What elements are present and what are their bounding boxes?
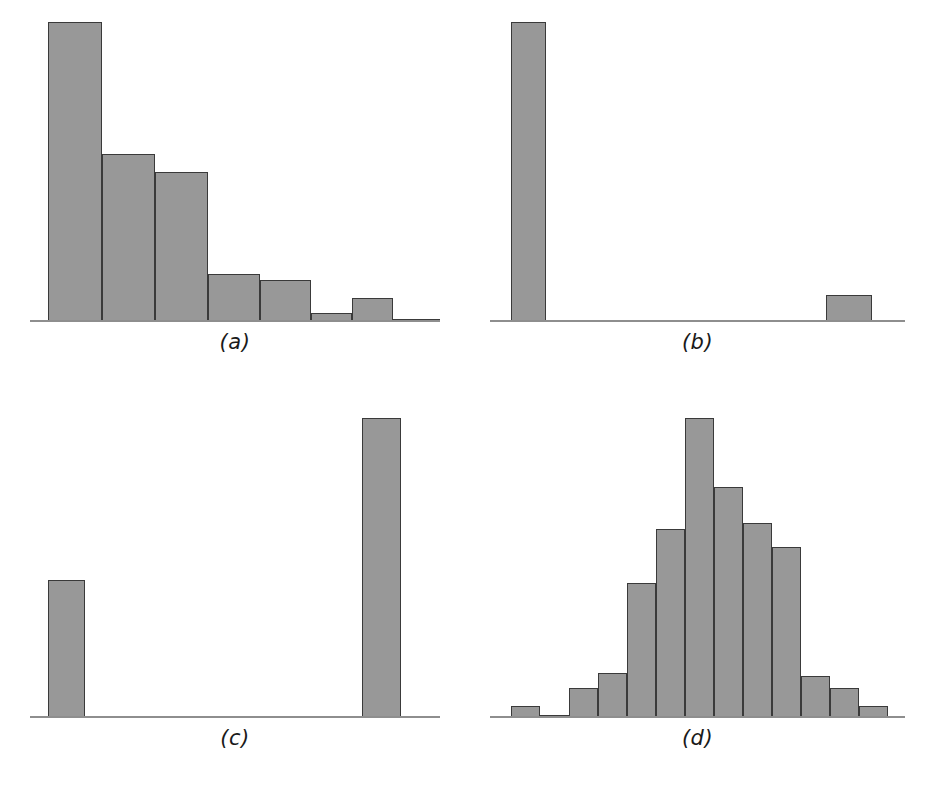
histogram-bar xyxy=(801,676,830,718)
panel-d: (d) xyxy=(490,418,905,766)
panel-d-baseline xyxy=(490,716,905,718)
panel-a: (a) xyxy=(30,22,440,370)
panel-c: (c) xyxy=(30,418,440,766)
histogram-bar xyxy=(511,22,546,322)
histogram-bar xyxy=(362,418,401,718)
histogram-bar xyxy=(714,487,743,718)
four-histograms-figure: (a) (b) (c) (d) xyxy=(0,0,930,789)
panel-a-plot xyxy=(30,22,440,322)
panel-a-label: (a) xyxy=(30,330,440,354)
histogram-bar xyxy=(830,688,859,718)
panel-d-bars xyxy=(490,418,905,718)
histogram-bar xyxy=(685,418,714,718)
histogram-bar xyxy=(826,295,872,322)
panel-b: (b) xyxy=(490,22,905,370)
histogram-bar xyxy=(352,298,393,322)
histogram-bar xyxy=(627,583,656,718)
histogram-bar xyxy=(743,523,772,718)
panel-c-plot xyxy=(30,418,440,718)
histogram-bar xyxy=(598,673,627,718)
histogram-bar xyxy=(260,280,311,322)
histogram-bar xyxy=(102,154,155,322)
histogram-bar xyxy=(48,22,101,322)
panel-b-plot xyxy=(490,22,905,322)
panel-d-plot xyxy=(490,418,905,718)
histogram-bar xyxy=(656,529,685,718)
panel-c-baseline xyxy=(30,716,440,718)
histogram-bar xyxy=(569,688,598,718)
panel-d-label: (d) xyxy=(490,726,905,750)
panel-b-baseline xyxy=(490,320,905,322)
panel-a-bars xyxy=(30,22,440,322)
histogram-bar xyxy=(48,580,85,718)
panel-c-bars xyxy=(30,418,440,718)
histogram-bar xyxy=(155,172,208,322)
panel-b-label: (b) xyxy=(490,330,905,354)
panel-c-label: (c) xyxy=(30,726,440,750)
panel-b-bars xyxy=(490,22,905,322)
histogram-bar xyxy=(208,274,259,322)
histogram-bar xyxy=(772,547,801,718)
panel-a-baseline xyxy=(30,320,440,322)
